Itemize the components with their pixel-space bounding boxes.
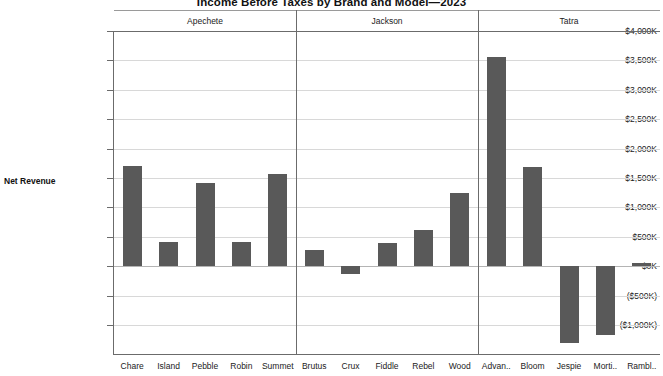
bar[interactable] xyxy=(487,57,506,266)
x-axis-tick-label: Island xyxy=(150,355,186,376)
group-header-tatra: Tatra xyxy=(478,10,660,31)
bar[interactable] xyxy=(450,193,469,266)
x-axis-tick-label: Wood xyxy=(442,355,478,376)
gridline xyxy=(114,149,660,150)
bar[interactable] xyxy=(378,243,397,267)
bar[interactable] xyxy=(159,242,178,266)
bar[interactable] xyxy=(123,166,142,266)
bar[interactable] xyxy=(196,183,215,266)
bar[interactable] xyxy=(523,167,542,266)
gridline xyxy=(114,60,660,61)
group-separator xyxy=(296,10,297,355)
x-axis-tick-label: Bloom xyxy=(514,355,550,376)
x-axis-tick-label: Rambl.. xyxy=(624,355,660,376)
bar[interactable] xyxy=(305,250,324,267)
bar[interactable] xyxy=(632,263,651,267)
x-axis-tick-label: Pebble xyxy=(187,355,223,376)
x-axis-tick-label: Summet xyxy=(260,355,296,376)
x-axis-tick-label: Fiddle xyxy=(369,355,405,376)
x-axis-tick-label: Chare xyxy=(114,355,150,376)
gridline xyxy=(114,119,660,120)
group-header-band: ApecheteJacksonTatra xyxy=(114,10,660,31)
x-axis-tick-label: Jespie xyxy=(551,355,587,376)
bar[interactable] xyxy=(341,266,360,274)
group-header-jackson: Jackson xyxy=(296,10,478,31)
bar[interactable] xyxy=(596,266,615,335)
bar[interactable] xyxy=(232,242,251,266)
chart-container: Income Before Taxes by Brand and Model—2… xyxy=(0,0,663,376)
bar[interactable] xyxy=(414,230,433,266)
gridline xyxy=(114,178,660,179)
x-axis-tick-label: Robin xyxy=(223,355,259,376)
chart-title: Income Before Taxes by Brand and Model—2… xyxy=(0,0,663,8)
x-axis-tick-label: Morti.. xyxy=(587,355,623,376)
bar[interactable] xyxy=(560,266,579,343)
group-separator xyxy=(478,10,479,355)
x-axis-tick-label: Crux xyxy=(332,355,368,376)
group-header-apechete: Apechete xyxy=(114,10,296,31)
x-axis-tick-label: Advan.. xyxy=(478,355,514,376)
y-axis-line xyxy=(113,31,114,355)
bar[interactable] xyxy=(268,174,287,266)
x-axis-tick-label: Rebel xyxy=(405,355,441,376)
x-axis-labels: ChareIslandPebbleRobinSummetBrutusCruxFi… xyxy=(114,355,660,376)
x-axis-tick-label: Brutus xyxy=(296,355,332,376)
y-axis-title: Net Revenue xyxy=(4,176,76,186)
plot-top-border xyxy=(114,31,660,32)
gridline xyxy=(114,90,660,91)
